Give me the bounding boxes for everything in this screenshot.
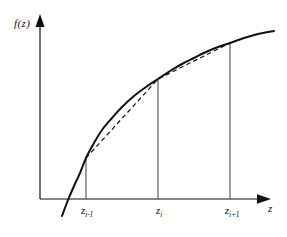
- drop-lines-group: [86, 43, 230, 199]
- x-axis-label: z: [268, 203, 272, 214]
- tick-label-z-i: zi: [156, 205, 162, 216]
- y-axis-arrow-icon: [35, 14, 44, 27]
- fz-curve-path: [62, 31, 274, 216]
- tick-1-sub: i: [160, 210, 162, 219]
- tick-label-z-i-plus-1: zi+1: [225, 205, 240, 216]
- tick-2-sub: i+1: [229, 210, 239, 219]
- tick-0-sub: i-1: [85, 210, 93, 219]
- tick-label-z-i-minus-1: zi-1: [81, 205, 93, 216]
- plot-canvas: [0, 0, 287, 237]
- figure-container: f(z) z zi-1 zi zi+1: [0, 0, 287, 237]
- y-axis-label: f(z): [14, 18, 30, 29]
